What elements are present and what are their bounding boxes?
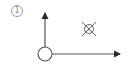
into-page-vector-icon xyxy=(82,22,96,36)
coordinate-frame-diagram xyxy=(0,0,130,68)
origin-circle xyxy=(38,47,52,61)
